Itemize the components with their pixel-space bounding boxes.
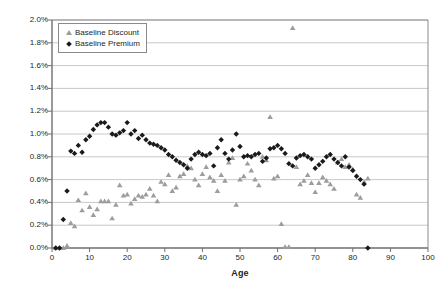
data-point [316, 162, 321, 167]
data-point [91, 212, 97, 217]
data-point [350, 168, 355, 173]
x-tick-label: 20 [112, 254, 142, 262]
x-tick-label: 80 [338, 254, 368, 262]
data-point [143, 137, 148, 142]
data-point [203, 164, 209, 169]
data-point [196, 183, 202, 188]
data-point [320, 175, 326, 180]
data-point [79, 208, 85, 213]
data-point [215, 188, 221, 193]
data-point [219, 137, 224, 142]
data-point [151, 193, 157, 198]
x-tick-label: 60 [263, 254, 293, 262]
diamond-marker-icon [63, 42, 75, 46]
data-point [301, 178, 307, 183]
data-point [237, 144, 242, 149]
legend-label-baseline-premium: Baseline Premium [75, 38, 140, 49]
data-point [61, 217, 66, 222]
data-point [331, 186, 337, 191]
x-tick-label: 0 [37, 254, 67, 262]
data-point [94, 207, 100, 212]
data-point [124, 192, 130, 197]
data-point [248, 168, 254, 173]
data-point [313, 166, 318, 171]
data-point [106, 199, 112, 204]
data-point [222, 151, 227, 156]
data-point [365, 245, 370, 250]
data-point [76, 197, 82, 202]
data-point [125, 120, 130, 125]
x-tick-label: 70 [300, 254, 330, 262]
data-point [279, 221, 285, 226]
x-tick-label: 10 [75, 254, 105, 262]
data-point [320, 159, 325, 164]
data-point [207, 175, 213, 180]
legend-label-baseline-discount: Baseline Discount [75, 27, 139, 38]
data-point [215, 145, 220, 150]
data-point [358, 177, 363, 182]
data-point [64, 243, 70, 248]
data-point [316, 180, 322, 185]
data-point [173, 185, 179, 190]
series-baseline-premium [53, 120, 370, 251]
x-tick-label: 50 [225, 254, 255, 262]
data-point [76, 143, 81, 148]
tick-marks [48, 20, 428, 252]
x-tick-label: 30 [150, 254, 180, 262]
data-point [143, 192, 149, 197]
data-point [181, 171, 187, 176]
data-point [147, 186, 153, 191]
data-point [305, 172, 311, 177]
data-point [290, 25, 296, 30]
data-point [64, 188, 69, 193]
data-point [136, 193, 142, 198]
data-point [309, 180, 315, 185]
scatter-chart: SMM 2.0%1.8%1.6%1.4%1.2%1.0%0.8%0.6%0.4%… [0, 0, 447, 286]
data-point [230, 147, 235, 152]
data-point [132, 128, 137, 133]
data-point [117, 183, 123, 188]
data-point [109, 216, 115, 221]
legend-item-baseline-premium: Baseline Premium [63, 38, 140, 49]
data-point [128, 131, 133, 136]
data-point [286, 244, 292, 249]
data-point [256, 183, 262, 188]
data-point [200, 171, 206, 176]
data-point [91, 127, 96, 132]
data-point [68, 220, 74, 225]
data-point [102, 120, 107, 125]
data-point [264, 155, 269, 160]
x-tick-label: 90 [375, 254, 405, 262]
data-point [140, 132, 145, 137]
data-point [267, 114, 273, 119]
data-point [87, 204, 93, 209]
data-point [361, 181, 366, 186]
data-point [234, 131, 239, 136]
x-axis-title: Age [52, 268, 428, 278]
series-baseline-discount [53, 25, 371, 250]
x-tick-label: 100 [413, 254, 443, 262]
data-point [260, 159, 265, 164]
data-point [211, 163, 216, 168]
data-point [154, 199, 160, 204]
data-point [245, 161, 251, 166]
data-point [79, 150, 84, 155]
data-point [354, 192, 360, 197]
data-point [83, 191, 89, 196]
data-point [136, 136, 141, 141]
data-point [282, 151, 287, 156]
data-point [218, 172, 224, 177]
data-point [241, 173, 247, 178]
data-point [106, 124, 111, 129]
data-point [128, 201, 134, 206]
data-point [354, 173, 359, 178]
x-tick-label: 40 [187, 254, 217, 262]
data-point [275, 173, 281, 178]
chart-legend: Baseline Discount Baseline Premium [58, 23, 147, 53]
data-point [222, 178, 228, 183]
data-point [279, 146, 284, 151]
data-point [312, 189, 318, 194]
triangle-marker-icon [63, 30, 75, 35]
data-point [365, 176, 371, 181]
data-point [83, 137, 88, 142]
